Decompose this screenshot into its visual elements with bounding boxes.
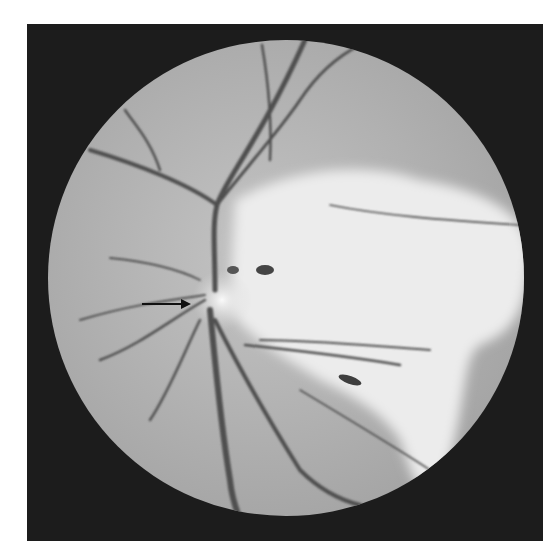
fundus-photo (0, 0, 554, 556)
fundus-circle (40, 30, 540, 530)
